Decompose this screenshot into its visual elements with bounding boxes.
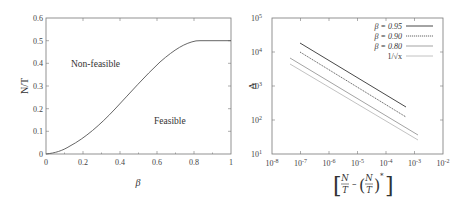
legend-label: β = 0.80 [374,42,402,51]
bracket-right: ] [385,173,394,198]
svg-text:N: N [364,173,373,183]
right-plot-frame [272,18,443,154]
y-tick: 0.5 [33,37,43,46]
svg-text:T: T [366,185,373,195]
series-beta-0.80 [290,58,418,135]
x-tick: 1 [229,158,233,167]
y-tick: 0.6 [33,14,43,23]
legend-label: β = 0.90 [374,32,402,41]
right-x-tick-labels: 10-8 10-7 10-6 10-5 10-4 10-3 10-2 [266,158,450,169]
left-y-axis-label: N/T [19,78,30,94]
y-tick: 0.2 [33,105,43,114]
x-tick: 10-7 [294,158,307,169]
y-tick: 0.3 [33,82,43,91]
y-tick: 0.1 [33,127,43,136]
x-tick: 10-2 [437,158,450,169]
y-tick: 0 [39,150,43,159]
svg-text:–: – [352,179,357,189]
x-tick: 10-3 [408,158,421,169]
feasible-label: Feasible [154,116,186,126]
svg-text:T: T [342,185,349,195]
series-beta-0.90 [300,52,406,117]
legend: β = 0.95 β = 0.90 β = 0.80 1/√x [374,22,433,61]
x-tick: 0.8 [189,158,199,167]
left-x-tick-labels: 0 0.2 0.4 0.6 0.8 1 [44,158,233,167]
svg-text:N: N [340,173,349,183]
left-y-ticks [46,41,231,132]
left-plot-frame [46,18,231,154]
left-chart: 0 0.2 0.4 0.6 0.8 1 0 0.1 0.2 0.3 0.4 0.… [19,14,233,188]
legend-label: 1/√x [387,52,402,61]
y-tick: 102 [251,115,262,126]
x-tick: 10-4 [380,158,393,169]
x-tick: 0 [44,158,48,167]
left-x-axis-label: β [135,177,141,188]
y-tick: 101 [251,149,262,160]
x-tick: 10-8 [266,158,279,169]
x-tick: 0.2 [78,158,88,167]
x-tick: 10-6 [323,158,336,169]
legend-label: β = 0.95 [374,22,402,31]
left-x-ticks [65,18,213,154]
non-feasible-label: Non-feasible [71,59,120,69]
left-y-tick-labels: 0 0.1 0.2 0.3 0.4 0.5 0.6 [33,14,43,159]
svg-text:*: * [380,172,384,180]
right-y-axis-label: Δ [247,82,258,89]
right-chart: 10-8 10-7 10-6 10-5 10-4 10-3 10-2 101 1… [247,13,450,199]
x-tick: 10-5 [351,158,364,169]
y-tick: 104 [251,47,262,58]
feasibility-curve [46,41,231,154]
y-tick: 105 [251,13,262,24]
right-x-axis-label: [ N T – ( N T ) * ] [333,172,394,198]
x-tick: 0.4 [115,158,125,167]
y-tick: 0.4 [33,59,43,68]
x-tick: 0.6 [152,158,162,167]
figure: 0 0.2 0.4 0.6 0.8 1 0 0.1 0.2 0.3 0.4 0.… [0,0,467,209]
